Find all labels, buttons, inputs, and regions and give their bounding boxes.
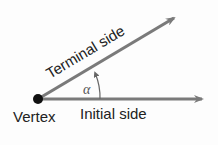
angle-diagram-svg: Terminal side α Initial side Vertex	[0, 0, 218, 145]
vertex-label: Vertex	[13, 108, 56, 125]
angle-diagram: Terminal side α Initial side Vertex	[0, 0, 218, 145]
angle-alpha-label: α	[83, 82, 91, 97]
vertex-dot	[33, 94, 43, 104]
initial-side-label: Initial side	[80, 105, 147, 122]
angle-arc-icon	[96, 74, 101, 99]
